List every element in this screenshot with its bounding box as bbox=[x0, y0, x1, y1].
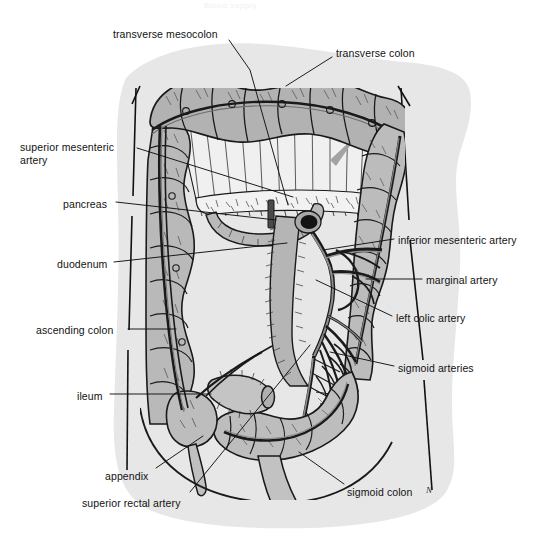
label-duodenum: duodenum bbox=[57, 258, 107, 271]
label-sigmoid-colon: sigmoid colon bbox=[347, 486, 413, 499]
figure-root: Blood supply bbox=[0, 0, 533, 558]
label-appendix: appendix bbox=[105, 470, 148, 483]
label-superior-rectal-artery: superior rectal artery bbox=[82, 497, 180, 510]
label-ascending-colon: ascending colon bbox=[36, 324, 113, 337]
label-sigmoid-arteries: sigmoid arteries bbox=[398, 362, 474, 375]
cecum bbox=[166, 391, 217, 447]
label-pancreas: pancreas bbox=[63, 198, 107, 211]
label-ileum: ileum bbox=[77, 390, 103, 403]
label-transverse-colon: transverse colon bbox=[336, 47, 415, 60]
label-left-colic-artery: left colic artery bbox=[396, 312, 465, 325]
label-inferior-mesenteric-artery: inferior mesenteric artery bbox=[398, 234, 517, 247]
label-marginal-artery: marginal artery bbox=[426, 274, 498, 287]
vessel-stump-marker bbox=[268, 200, 274, 228]
label-transverse-mesocolon: transverse mesocolon bbox=[113, 28, 218, 41]
label-superior-mesenteric-artery: superior mesenteric artery bbox=[20, 141, 114, 166]
artist-signature: N bbox=[426, 485, 432, 495]
aorta-lumen bbox=[295, 211, 321, 233]
